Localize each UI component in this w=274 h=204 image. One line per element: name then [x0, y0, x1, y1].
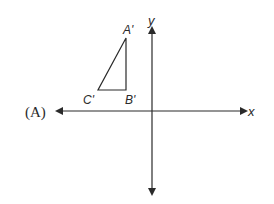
vertex-label-b-prime: B' — [125, 93, 136, 107]
triangle-a-b-c-prime — [98, 38, 126, 90]
vertex-label-c-prime: C' — [83, 93, 95, 107]
x-axis-label: x — [247, 104, 255, 119]
y-axis-label: y — [147, 13, 156, 28]
option-label: (A) — [25, 104, 46, 121]
vertex-label-a-prime: A' — [122, 23, 134, 37]
coordinate-plane-diagram: (A) x y A' B' C' — [0, 0, 274, 204]
